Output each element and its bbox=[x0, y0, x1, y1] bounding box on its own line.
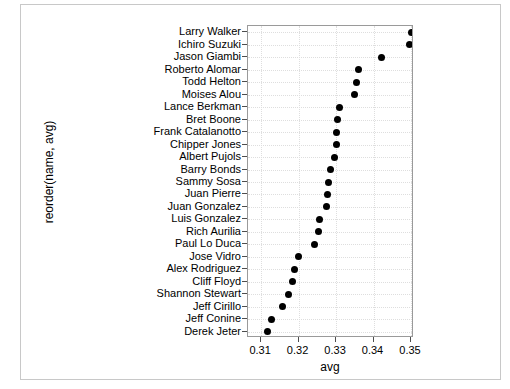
y-tick-mark bbox=[242, 131, 247, 132]
y-tick-mark bbox=[242, 106, 247, 107]
x-tick-label: 0.31 bbox=[249, 344, 270, 356]
x-tick-label: 0.32 bbox=[287, 344, 308, 356]
data-point bbox=[355, 66, 362, 73]
y-tick-mark bbox=[242, 331, 247, 332]
y-tick-label: Jose Vidro bbox=[189, 250, 241, 261]
y-tick-mark bbox=[242, 318, 247, 319]
gridline-vertical bbox=[411, 26, 412, 336]
y-tick-mark bbox=[242, 44, 247, 45]
data-point bbox=[325, 179, 332, 186]
data-point bbox=[264, 328, 271, 335]
y-tick-mark bbox=[242, 181, 247, 182]
data-point bbox=[334, 116, 341, 123]
y-tick-label: Moises Alou bbox=[182, 88, 241, 99]
y-tick-mark bbox=[242, 293, 247, 294]
data-point bbox=[378, 54, 385, 61]
y-tick-label: Roberto Alomar bbox=[165, 63, 241, 74]
y-tick-label: Ichiro Suzuki bbox=[178, 38, 241, 49]
gridline-horizontal bbox=[248, 82, 412, 83]
gridline-horizontal bbox=[248, 207, 412, 208]
y-tick-label: Albert Pujols bbox=[179, 151, 241, 162]
x-tick-mark bbox=[373, 337, 374, 342]
y-tick-mark bbox=[242, 306, 247, 307]
y-tick-label: Luis Gonzalez bbox=[171, 213, 241, 224]
y-tick-mark bbox=[242, 193, 247, 194]
x-tick-label: 0.33 bbox=[324, 344, 345, 356]
data-point bbox=[289, 278, 296, 285]
gridline-horizontal bbox=[248, 145, 412, 146]
gridline-horizontal bbox=[248, 32, 412, 33]
data-point bbox=[351, 91, 358, 98]
gridline-horizontal bbox=[248, 282, 412, 283]
gridline-horizontal bbox=[248, 269, 412, 270]
y-tick-label: Jeff Conine bbox=[186, 313, 241, 324]
plot-figure: Larry WalkerIchiro SuzukiJason GiambiRob… bbox=[0, 0, 510, 389]
gridline-vertical bbox=[374, 26, 375, 336]
y-tick-mark bbox=[242, 206, 247, 207]
y-tick-label: Juan Pierre bbox=[185, 188, 241, 199]
y-axis-title: reorder(name, avg) bbox=[42, 82, 56, 262]
data-point bbox=[316, 216, 323, 223]
x-tick-mark bbox=[298, 337, 299, 342]
x-axis-title: avg bbox=[247, 360, 413, 374]
y-tick-label: Cliff Floyd bbox=[192, 275, 241, 286]
y-tick-mark bbox=[242, 56, 247, 57]
y-tick-mark bbox=[242, 69, 247, 70]
data-point bbox=[324, 191, 331, 198]
gridline-horizontal bbox=[248, 132, 412, 133]
data-point bbox=[295, 253, 302, 260]
y-tick-label: Juan Gonzalez bbox=[168, 200, 241, 211]
gridline-horizontal bbox=[248, 294, 412, 295]
y-tick-mark bbox=[242, 31, 247, 32]
figure-border: Larry WalkerIchiro SuzukiJason GiambiRob… bbox=[20, 4, 501, 380]
y-tick-mark bbox=[242, 218, 247, 219]
data-point bbox=[327, 166, 334, 173]
x-tick-mark bbox=[335, 337, 336, 342]
y-tick-mark bbox=[242, 81, 247, 82]
y-tick-mark bbox=[242, 169, 247, 170]
gridline-horizontal bbox=[248, 70, 412, 71]
gridline-vertical bbox=[261, 26, 262, 336]
x-tick-mark bbox=[260, 337, 261, 342]
data-point bbox=[291, 266, 298, 273]
y-tick-label: Rich Aurilia bbox=[186, 225, 241, 236]
gridline-vertical bbox=[336, 26, 337, 336]
gridline-vertical bbox=[299, 26, 300, 336]
y-tick-label: Chipper Jones bbox=[170, 138, 241, 149]
data-point bbox=[315, 228, 322, 235]
data-point bbox=[333, 141, 340, 148]
data-point bbox=[268, 316, 275, 323]
y-tick-label: Bret Boone bbox=[186, 113, 241, 124]
y-tick-label: Paul Lo Duca bbox=[175, 238, 241, 249]
y-tick-label: Derek Jeter bbox=[184, 325, 241, 336]
y-axis-labels: Larry WalkerIchiro SuzukiJason GiambiRob… bbox=[81, 25, 241, 337]
y-tick-label: Jason Giambi bbox=[174, 51, 241, 62]
x-tick-mark bbox=[410, 337, 411, 342]
y-tick-label: Alex Rodriguez bbox=[166, 263, 241, 274]
gridline-horizontal bbox=[248, 244, 412, 245]
data-point bbox=[323, 203, 330, 210]
data-point bbox=[408, 29, 414, 36]
y-tick-label: Lance Berkman bbox=[164, 101, 241, 112]
y-tick-mark bbox=[242, 119, 247, 120]
y-tick-label: Shannon Stewart bbox=[157, 288, 241, 299]
gridline-horizontal bbox=[248, 57, 412, 58]
data-point bbox=[285, 291, 292, 298]
x-tick-label: 0.34 bbox=[362, 344, 383, 356]
y-tick-label: Sammy Sosa bbox=[176, 176, 241, 187]
gridline-horizontal bbox=[248, 219, 412, 220]
y-tick-label: Todd Helton bbox=[182, 76, 241, 87]
data-point bbox=[279, 303, 286, 310]
y-tick-label: Frank Catalanotto bbox=[154, 126, 241, 137]
data-point bbox=[353, 79, 360, 86]
y-tick-label: Jeff Cirillo bbox=[193, 300, 241, 311]
y-tick-mark bbox=[242, 268, 247, 269]
data-point bbox=[406, 41, 413, 48]
gridline-horizontal bbox=[248, 257, 412, 258]
data-point bbox=[333, 129, 340, 136]
y-tick-mark bbox=[242, 156, 247, 157]
y-tick-mark bbox=[242, 144, 247, 145]
gridline-horizontal bbox=[248, 107, 412, 108]
gridline-horizontal bbox=[248, 45, 412, 46]
gridline-horizontal bbox=[248, 120, 412, 121]
